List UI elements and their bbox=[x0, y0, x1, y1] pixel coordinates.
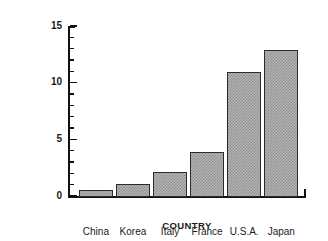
y-axis-tick-label: 10 bbox=[38, 76, 62, 87]
y-axis-major-tick bbox=[70, 82, 77, 83]
plot-area: 051015 ChinaKoreaItalyFranceU.S.A.Japan bbox=[68, 26, 306, 196]
y-axis-major-tick bbox=[70, 195, 77, 196]
y-axis-minor-tick bbox=[70, 127, 75, 128]
bar bbox=[153, 172, 187, 197]
y-axis-minor-tick bbox=[70, 59, 75, 60]
y-axis-tick-label: 15 bbox=[38, 20, 62, 31]
y-axis-minor-tick bbox=[70, 37, 75, 38]
y-axis-minor-tick bbox=[70, 116, 75, 117]
y-axis-minor-tick bbox=[70, 184, 75, 185]
bar bbox=[79, 190, 113, 197]
bar bbox=[116, 184, 150, 198]
bar bbox=[190, 152, 224, 198]
x-axis-end-cap bbox=[304, 189, 306, 196]
y-axis-line bbox=[68, 26, 70, 196]
y-axis-minor-tick bbox=[70, 161, 75, 162]
y-axis-title: MILLIONS OF UNITS bbox=[0, 0, 22, 241]
y-axis-minor-tick bbox=[70, 71, 75, 72]
y-axis-minor-tick bbox=[70, 93, 75, 94]
y-axis-major-tick bbox=[70, 139, 77, 140]
y-axis-minor-tick bbox=[70, 173, 75, 174]
x-axis-title: COUNTRY bbox=[68, 220, 306, 231]
y-axis-minor-tick bbox=[70, 48, 75, 49]
y-axis-tick-label: 0 bbox=[38, 190, 62, 201]
y-axis-tick-label: 5 bbox=[38, 133, 62, 144]
y-axis-minor-tick bbox=[70, 150, 75, 151]
bar bbox=[227, 72, 261, 197]
bar bbox=[264, 50, 298, 198]
y-axis-major-tick bbox=[70, 25, 77, 26]
bar-chart: MILLIONS OF UNITS 051015 ChinaKoreaItaly… bbox=[0, 0, 328, 241]
y-axis-minor-tick bbox=[70, 105, 75, 106]
